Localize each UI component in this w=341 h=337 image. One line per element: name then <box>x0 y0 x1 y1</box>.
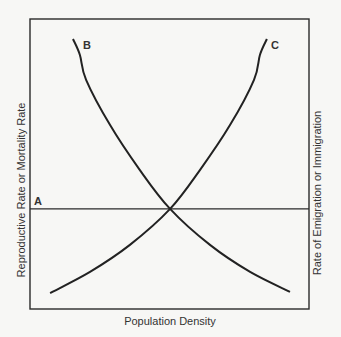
population-density-chart: A B C Population Density Reproductive Ra… <box>0 0 341 337</box>
curve-c <box>50 39 267 293</box>
plot-frame <box>30 19 309 309</box>
curve-label-b: B <box>83 39 91 51</box>
curve-b <box>73 39 290 292</box>
y-axis-label-left: Reproductive Rate or Mortality Rate <box>15 103 27 278</box>
y-axis-label-right: Rate of Emigration or Immigration <box>311 111 323 275</box>
curve-label-a: A <box>34 195 42 207</box>
x-axis-label: Population Density <box>124 315 216 327</box>
curve-label-c: C <box>271 39 279 51</box>
